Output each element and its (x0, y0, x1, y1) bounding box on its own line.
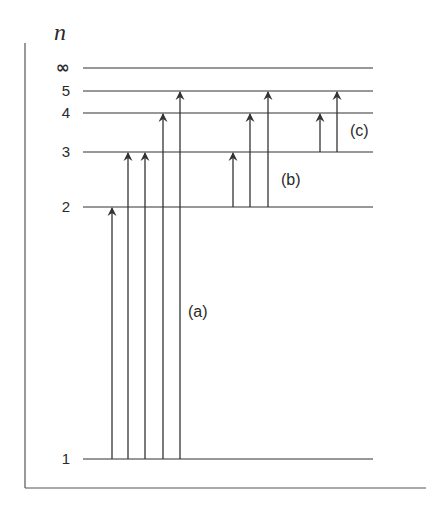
energy-level-3: 3 (62, 143, 373, 160)
energy-level-4: 4 (62, 104, 373, 121)
energy-level-diagram: n ∞54321 (a)(b)(c) (0, 0, 426, 506)
series-label-c: (c) (350, 122, 369, 139)
energy-level-2: 2 (62, 198, 373, 215)
energy-levels: ∞54321 (56, 57, 373, 467)
series-c (316, 91, 342, 152)
transitions (108, 91, 342, 459)
series-label-b: (b) (281, 171, 301, 188)
axis-label-n: n (54, 19, 66, 45)
level-label: 2 (62, 198, 70, 215)
level-label: ∞ (56, 57, 70, 77)
level-label: 4 (62, 104, 70, 121)
level-label: 5 (62, 82, 70, 99)
energy-level-1: 1 (62, 450, 373, 467)
diagram-frame (25, 43, 426, 488)
series-a (108, 91, 185, 459)
level-label: 3 (62, 143, 70, 160)
level-label: 1 (62, 450, 70, 467)
energy-level-5: 5 (62, 82, 373, 99)
series-b (229, 91, 273, 207)
series-label-a: (a) (188, 303, 208, 320)
energy-level-infinity: ∞ (56, 57, 373, 77)
